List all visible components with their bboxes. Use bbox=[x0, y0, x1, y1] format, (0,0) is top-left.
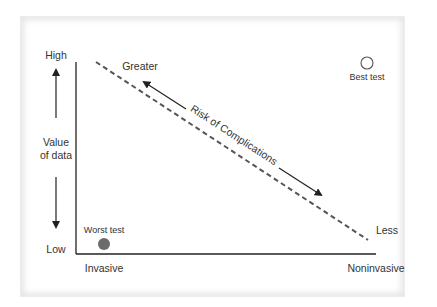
risk-trend-dashed-line bbox=[96, 62, 368, 240]
less-label: Less bbox=[376, 224, 398, 236]
best-test-marker bbox=[361, 57, 373, 69]
worst-test-marker bbox=[98, 238, 110, 250]
x-axis-invasive-label: Invasive bbox=[85, 262, 124, 274]
value-vs-invasiveness-diagram: High Value of data Low Invasive Noninvas… bbox=[0, 0, 437, 307]
y-axis-title-line2: of data bbox=[40, 149, 72, 161]
x-axis-noninvasive-label: Noninvasive bbox=[347, 262, 404, 274]
greater-label: Greater bbox=[122, 60, 158, 72]
risk-arrow-down-right-icon bbox=[279, 168, 321, 195]
figure-stage: High Value of data Low Invasive Noninvas… bbox=[0, 0, 437, 307]
risk-arrow-up-left-icon bbox=[144, 82, 186, 109]
risk-of-complications-label: Risk of Complications bbox=[189, 102, 280, 167]
best-test-label: Best test bbox=[349, 72, 385, 82]
y-axis-low-label: Low bbox=[46, 243, 66, 255]
y-axis-high-label: High bbox=[45, 49, 67, 61]
y-axis-title-line1: Value bbox=[43, 136, 69, 148]
worst-test-label: Worst test bbox=[84, 225, 125, 235]
